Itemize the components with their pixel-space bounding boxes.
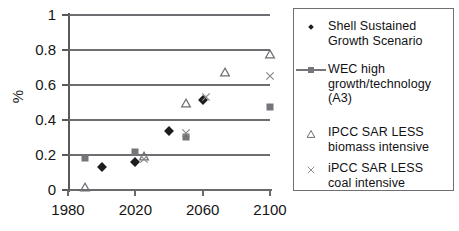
x-tick-label: 2060 bbox=[186, 201, 219, 218]
y-tick: 0.2 bbox=[62, 154, 69, 156]
y-tick-label: 0.2 bbox=[35, 146, 56, 163]
y-tick-label: 0.8 bbox=[35, 41, 56, 58]
data-point-square bbox=[81, 154, 88, 161]
y-tick-label: 0.4 bbox=[35, 111, 56, 128]
scatter-chart: % 00.20.40.60.81 1980202020602100 bbox=[0, 0, 285, 231]
legend-label-line: iPCC SAR LESS bbox=[328, 161, 423, 176]
gridline bbox=[68, 154, 270, 156]
chart-legend: Shell SustainedGrowth ScenarioWEC highgr… bbox=[293, 8, 454, 191]
legend-label-line: biomass intensive bbox=[328, 140, 429, 155]
data-point-diamond bbox=[97, 162, 107, 172]
legend-label-line: coal intensive bbox=[328, 176, 423, 191]
legend-entry[interactable]: iPCC SAR LESScoal intensive bbox=[294, 161, 453, 190]
legend-entry[interactable]: WEC highgrowth/technology(A3) bbox=[294, 62, 453, 106]
legend-label-line: Shell Sustained bbox=[328, 19, 423, 34]
legend-entry[interactable]: IPCC SAR LESSbiomass intensive bbox=[294, 125, 453, 154]
legend-label-line: growth/technology bbox=[328, 77, 431, 92]
plot-area: 00.20.40.60.81 1980202020602100 bbox=[68, 15, 270, 190]
x-tick-label: 2020 bbox=[119, 201, 152, 218]
y-axis-label: % bbox=[9, 84, 26, 110]
data-point-square bbox=[267, 103, 274, 110]
data-point-triangle bbox=[220, 67, 230, 76]
gridline bbox=[68, 49, 270, 51]
x-tick bbox=[202, 190, 204, 196]
triangle-marker bbox=[294, 125, 328, 140]
gridline bbox=[68, 119, 270, 121]
data-point-diamond bbox=[164, 126, 174, 136]
data-point-cross bbox=[266, 72, 275, 81]
gridline bbox=[68, 14, 270, 16]
y-tick-label: 1 bbox=[48, 6, 56, 23]
y-tick: 0.6 bbox=[62, 84, 69, 86]
y-tick: 1 bbox=[62, 14, 69, 16]
legend-entry[interactable]: Shell SustainedGrowth Scenario bbox=[294, 19, 453, 48]
data-point-cross bbox=[202, 93, 211, 102]
diamond-marker bbox=[294, 19, 328, 34]
y-tick-label: 0 bbox=[48, 181, 56, 198]
data-point-cross bbox=[181, 129, 190, 138]
cross-marker bbox=[294, 161, 328, 176]
x-tick-label: 2100 bbox=[253, 201, 286, 218]
square-line-marker bbox=[294, 62, 328, 77]
x-tick bbox=[134, 190, 136, 196]
legend-label-line: IPCC SAR LESS bbox=[328, 125, 429, 140]
legend-label: IPCC SAR LESSbiomass intensive bbox=[328, 125, 429, 154]
legend-label: Shell SustainedGrowth Scenario bbox=[328, 19, 423, 48]
x-tick bbox=[269, 190, 271, 196]
y-tick: 0.8 bbox=[62, 49, 69, 51]
data-point-triangle bbox=[80, 182, 90, 191]
gridline bbox=[68, 84, 270, 86]
data-point-cross bbox=[139, 154, 148, 163]
data-point-triangle bbox=[181, 99, 191, 108]
x-tick-label: 1980 bbox=[51, 201, 84, 218]
legend-label-line: Growth Scenario bbox=[328, 34, 423, 49]
legend-label: iPCC SAR LESScoal intensive bbox=[328, 161, 423, 190]
legend-label-line: WEC high bbox=[328, 62, 431, 77]
legend-label-line: (A3) bbox=[328, 91, 431, 106]
y-tick: 0.4 bbox=[62, 119, 69, 121]
x-tick bbox=[67, 190, 69, 196]
y-tick-label: 0.6 bbox=[35, 76, 56, 93]
data-point-triangle bbox=[265, 49, 275, 58]
legend-label: WEC highgrowth/technology(A3) bbox=[328, 62, 431, 106]
